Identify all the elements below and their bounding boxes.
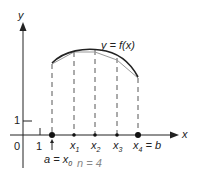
- n-label: n = 4: [77, 158, 102, 169]
- point-x1: [72, 133, 76, 137]
- dashed-ordinates: [52, 50, 138, 135]
- curve-label: y = f(x): [101, 40, 135, 51]
- point-a: [49, 132, 55, 138]
- x-tick-label: 1: [36, 141, 42, 152]
- point-x3: [115, 133, 119, 137]
- y-axis-arrow-icon: [20, 22, 27, 31]
- label-a-x0: a = x0: [44, 154, 72, 167]
- y-axis-label: y: [18, 10, 24, 21]
- trapezoid-rule-diagram: y x y = f(x) 1 0 1 x1 x2 x3 x4 = b a = x…: [0, 0, 203, 177]
- y-tick-label: 1: [14, 115, 20, 126]
- trapezoid-chords: [52, 52, 138, 78]
- x-axis-arrow-icon: [170, 132, 179, 139]
- label-x3: x3: [113, 140, 122, 153]
- label-x1: x1: [70, 140, 79, 153]
- x-axis-label: x: [182, 129, 188, 140]
- origin-label: 0: [14, 141, 20, 152]
- point-b: [135, 132, 141, 138]
- label-x4-b: x4 = b: [133, 140, 161, 153]
- label-x2: x2: [91, 140, 100, 153]
- point-x2: [93, 133, 97, 137]
- diagram-graphics: [0, 0, 203, 177]
- pointer-arrow-icon: [50, 139, 54, 143]
